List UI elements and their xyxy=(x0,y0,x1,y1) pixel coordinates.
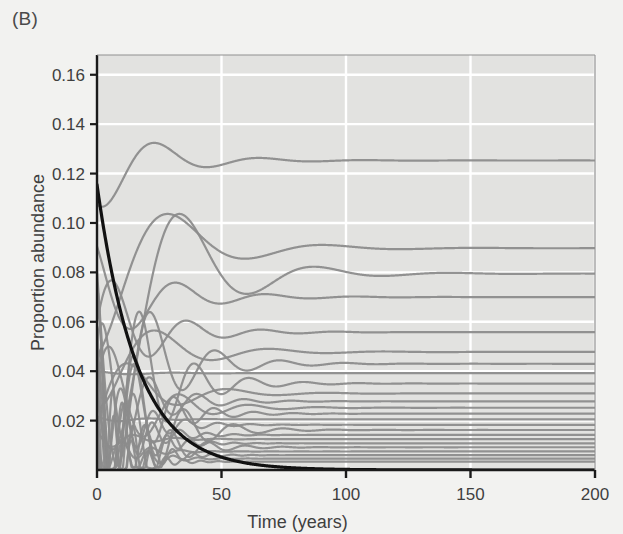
x-tick-label: 50 xyxy=(212,485,231,504)
y-tick-label: 0.16 xyxy=(52,66,85,85)
panel-label: (B) xyxy=(12,8,38,30)
y-tick-label: 0.04 xyxy=(52,362,85,381)
x-tick-label: 200 xyxy=(581,485,609,504)
figure-panel-b: (B) Proportion abundance 0.020.040.060.0… xyxy=(0,0,623,534)
y-tick-label: 0.08 xyxy=(52,263,85,282)
line-chart: 0.020.040.060.080.100.120.140.1605010015… xyxy=(0,0,623,534)
x-tick-label: 100 xyxy=(332,485,360,504)
y-tick-label: 0.14 xyxy=(52,115,85,134)
y-tick-label: 0.02 xyxy=(52,412,85,431)
y-tick-label: 0.12 xyxy=(52,165,85,184)
x-tick-label: 0 xyxy=(92,485,101,504)
y-axis-label: Proportion abundance xyxy=(28,174,49,351)
x-tick-label: 150 xyxy=(456,485,484,504)
y-tick-label: 0.10 xyxy=(52,214,85,233)
y-tick-label: 0.06 xyxy=(52,313,85,332)
x-axis-label: Time (years) xyxy=(0,512,595,533)
